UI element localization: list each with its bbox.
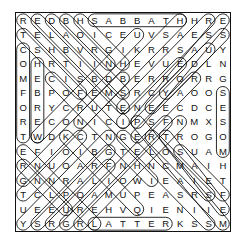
grid-cell[interactable]: U [16,202,30,217]
grid-cell[interactable]: O [59,115,73,130]
grid-cell[interactable]: I [87,115,101,130]
grid-cell[interactable]: T [59,57,73,72]
grid-cell[interactable]: A [73,158,87,173]
grid-cell[interactable]: T [16,28,30,43]
grid-cell[interactable]: I [102,173,116,188]
grid-cell[interactable]: T [159,13,173,28]
grid-cell[interactable]: S [216,28,230,43]
grid-cell[interactable]: R [187,71,201,86]
grid-cell[interactable]: R [73,202,87,217]
grid-cell[interactable]: A [144,13,158,28]
grid-cell[interactable]: R [16,158,30,173]
grid-cell[interactable]: C [16,42,30,57]
grid-cell[interactable]: U [159,57,173,72]
grid-cell[interactable]: Y [45,100,59,115]
grid-cell[interactable]: D [187,100,201,115]
grid-cell[interactable]: E [216,202,230,217]
grid-cell[interactable]: R [159,71,173,86]
grid-cell[interactable]: I [116,115,130,130]
grid-cell[interactable]: A [187,158,201,173]
grid-cell[interactable]: O [73,187,87,202]
grid-cell[interactable]: G [16,173,30,188]
grid-cell[interactable]: I [73,57,87,72]
grid-cell[interactable]: S [30,42,44,57]
grid-cell[interactable]: R [159,42,173,57]
grid-cell[interactable]: F [73,86,87,101]
grid-cell[interactable]: I [87,28,101,43]
grid-cell[interactable]: A [173,28,187,43]
grid-cell[interactable]: H [216,158,230,173]
grid-cell[interactable]: R [201,13,215,28]
grid-cell[interactable]: A [159,187,173,202]
grid-cell[interactable]: H [73,13,87,28]
grid-cell[interactable]: G [102,144,116,159]
grid-cell[interactable]: H [130,158,144,173]
grid-cell[interactable]: E [87,202,101,217]
grid-cell[interactable]: A [173,173,187,188]
grid-cell[interactable]: E [30,28,44,43]
grid-cell[interactable]: D [45,13,59,28]
grid-cell[interactable]: S [173,42,187,57]
grid-cell[interactable]: B [59,42,73,57]
grid-cell[interactable]: P [45,86,59,101]
grid-cell[interactable]: M [187,115,201,130]
grid-cell[interactable]: O [16,100,30,115]
grid-cell[interactable]: R [87,42,101,57]
grid-cell[interactable]: C [30,187,44,202]
grid-cell[interactable]: P [130,187,144,202]
grid-cell[interactable]: I [144,202,158,217]
grid-cell[interactable]: S [173,144,187,159]
grid-cell[interactable]: T [116,216,130,231]
grid-cell[interactable]: T [116,144,130,159]
grid-cell[interactable]: E [45,202,59,217]
grid-cell[interactable]: L [201,57,215,72]
grid-cell[interactable]: G [59,216,73,231]
grid-cell[interactable]: E [116,28,130,43]
grid-cell[interactable]: T [16,129,30,144]
grid-cell[interactable]: A [73,173,87,188]
grid-cell[interactable]: S [73,71,87,86]
grid-cell[interactable]: E [130,71,144,86]
grid-cell[interactable]: O [173,71,187,86]
grid-cell[interactable]: I [187,202,201,217]
grid-cell[interactable]: E [16,144,30,159]
grid-cell[interactable]: D [45,129,59,144]
grid-cell[interactable]: L [45,187,59,202]
grid-cell[interactable]: F [102,158,116,173]
grid-cell[interactable]: P [59,187,73,202]
grid-cell[interactable]: N [116,158,130,173]
grid-cell[interactable]: G [116,129,130,144]
grid-cell[interactable]: Y [216,42,230,57]
grid-cell[interactable]: N [130,100,144,115]
grid-cell[interactable]: T [216,173,230,188]
grid-cell[interactable]: H [187,13,201,28]
grid-cell[interactable]: E [30,115,44,130]
grid-cell[interactable]: E [30,202,44,217]
grid-cell[interactable]: N [30,158,44,173]
grid-cell[interactable]: C [59,100,73,115]
grid-cell[interactable]: C [102,115,116,130]
grid-cell[interactable]: S [216,115,230,130]
grid-cell[interactable]: O [59,86,73,101]
grid-cell[interactable]: E [216,100,230,115]
grid-cell[interactable]: I [59,71,73,86]
grid-cell[interactable]: G [102,42,116,57]
grid-cell[interactable]: R [59,173,73,188]
grid-cell[interactable]: A [59,28,73,43]
grid-cell[interactable]: N [73,115,87,130]
grid-cell[interactable]: U [187,144,201,159]
grid-cell[interactable]: R [16,115,30,130]
grid-cell[interactable]: C [144,86,158,101]
grid-cell[interactable]: E [159,100,173,115]
grid-cell[interactable]: H [116,57,130,72]
grid-cell[interactable]: T [159,129,173,144]
grid-cell[interactable]: U [45,158,59,173]
grid-cell[interactable]: O [187,86,201,101]
grid-cell[interactable]: B [116,13,130,28]
grid-cell[interactable]: N [144,158,158,173]
grid-cell[interactable]: K [130,42,144,57]
grid-cell[interactable]: B [116,71,130,86]
grid-cell[interactable]: M [173,158,187,173]
grid-cell[interactable]: U [116,187,130,202]
grid-cell[interactable]: E [201,173,215,188]
